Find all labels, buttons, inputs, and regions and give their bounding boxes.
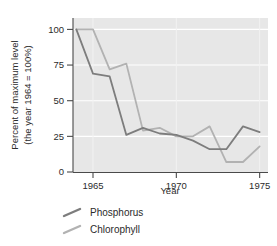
y-axis-title-line2: (the year 1964 = 100%) bbox=[22, 45, 33, 145]
plot-area-background bbox=[73, 18, 268, 172]
chart-figure: 0255075100 196519701975 Year Percent of … bbox=[0, 0, 277, 246]
y-tick-label: 75 bbox=[53, 59, 64, 70]
legend-label-phosphorus: Phosphorus bbox=[90, 207, 143, 218]
legend-swatch-phosphorus bbox=[64, 209, 80, 216]
y-tick-label: 100 bbox=[48, 24, 64, 35]
legend-label-chlorophyll: Chlorophyll bbox=[90, 224, 140, 235]
y-tick-label: 50 bbox=[53, 95, 64, 106]
x-tick-label: 1975 bbox=[249, 180, 270, 191]
x-axis-title: Year bbox=[160, 185, 179, 196]
y-axis-tick-labels: 0255075100 bbox=[48, 24, 64, 178]
legend-swatch-chlorophyll bbox=[64, 226, 80, 233]
y-axis-title-line1: Percent of maximum level bbox=[9, 40, 20, 149]
x-tick-label: 1965 bbox=[82, 180, 103, 191]
y-tick-label: 0 bbox=[59, 166, 64, 177]
y-axis-ticks bbox=[67, 29, 73, 172]
chart-legend: PhosphorusChlorophyll bbox=[64, 207, 143, 235]
line-chart: 0255075100 196519701975 Year Percent of … bbox=[0, 0, 277, 246]
y-tick-label: 25 bbox=[53, 131, 64, 142]
